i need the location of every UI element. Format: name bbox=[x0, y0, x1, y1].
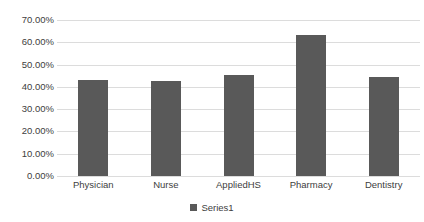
bar-chart: 70.00%60.00%50.00%40.00%30.00%20.00%10.0… bbox=[0, 0, 424, 222]
y-axis-label-30: 30.00% bbox=[2, 104, 54, 114]
y-axis-label-40: 40.00% bbox=[2, 82, 54, 92]
legend-label-series1: Series1 bbox=[201, 203, 233, 213]
gridline-60 bbox=[57, 42, 420, 43]
x-axis-label-physician: Physician bbox=[57, 179, 130, 190]
bar-physician[interactable] bbox=[78, 80, 108, 176]
x-axis-label-pharmacy: Pharmacy bbox=[275, 179, 348, 190]
x-axis: PhysicianNurseAppliedHSPharmacyDentistry bbox=[57, 179, 420, 195]
y-axis-label-60: 60.00% bbox=[2, 37, 54, 47]
x-axis-label-nurse: Nurse bbox=[130, 179, 203, 190]
bar-nurse[interactable] bbox=[151, 81, 181, 176]
bar-appliedhs[interactable] bbox=[224, 75, 254, 176]
gridline-50 bbox=[57, 65, 420, 66]
chart-title bbox=[0, 0, 424, 5]
y-axis: 70.00%60.00%50.00%40.00%30.00%20.00%10.0… bbox=[0, 0, 54, 176]
bar-dentistry[interactable] bbox=[369, 77, 399, 176]
y-axis-label-70: 70.00% bbox=[2, 15, 54, 25]
gridline-0 bbox=[57, 176, 420, 177]
legend-swatch-series1 bbox=[190, 204, 197, 211]
y-axis-label-0: 0.00% bbox=[2, 171, 54, 181]
y-axis-label-10: 10.00% bbox=[2, 149, 54, 159]
x-axis-label-dentistry: Dentistry bbox=[347, 179, 420, 190]
y-axis-label-20: 20.00% bbox=[2, 126, 54, 136]
x-axis-label-appliedhs: AppliedHS bbox=[202, 179, 275, 190]
gridline-70 bbox=[57, 20, 420, 21]
chart-legend: Series1 bbox=[0, 203, 424, 213]
bar-pharmacy[interactable] bbox=[296, 35, 326, 177]
plot-area bbox=[57, 20, 420, 176]
y-axis-label-50: 50.00% bbox=[2, 60, 54, 70]
